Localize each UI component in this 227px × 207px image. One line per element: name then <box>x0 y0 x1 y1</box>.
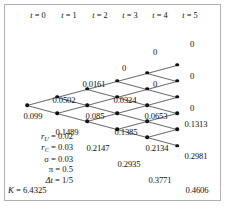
lattice-node[interactable] <box>25 103 29 107</box>
lattice-node[interactable] <box>145 71 149 75</box>
lattice-edge <box>117 113 147 122</box>
node-value-label: 0.2134 <box>145 143 168 153</box>
lattice-node[interactable] <box>85 103 89 107</box>
param-rc: rC = 0.03 <box>8 142 92 153</box>
lattice-edge <box>57 105 87 114</box>
node-value-label: 0.4606 <box>185 185 208 195</box>
lattice-edge <box>57 113 87 122</box>
param-dt: Δt = 1/5 <box>8 175 92 185</box>
lattice-edge <box>147 129 177 138</box>
param-rc-value: 0.03 <box>58 142 73 152</box>
lattice-node[interactable] <box>145 87 149 91</box>
node-value-label: 0.085 <box>86 111 105 121</box>
lattice-edge <box>147 121 177 130</box>
lattice-node[interactable] <box>115 79 119 83</box>
node-value-label: 0.099 <box>24 111 43 121</box>
time-header-value: = 2 <box>95 11 108 20</box>
lattice-node[interactable] <box>175 79 179 83</box>
node-value-label: 0.2935 <box>117 159 140 169</box>
node-value-label: 0.0653 <box>144 111 167 121</box>
sigma-symbol: σ <box>44 154 49 164</box>
node-value-label: 0 <box>122 63 126 73</box>
lattice-node[interactable] <box>175 63 179 67</box>
lattice-edge <box>87 121 117 130</box>
delta-t-symbol: Δt <box>45 175 52 185</box>
lattice-edge <box>147 73 177 82</box>
node-value-label: 0.1313 <box>184 119 207 129</box>
time-header-t1: t = 1 <box>61 11 76 20</box>
lattice-edge <box>147 97 177 106</box>
time-header-value: = 4 <box>155 11 168 20</box>
param-ru-value: 0.02 <box>58 131 73 141</box>
node-value-label: 0 <box>190 71 194 81</box>
lattice-node[interactable] <box>145 103 149 107</box>
param-k-value: 6.4325 <box>23 185 47 195</box>
lattice-edge <box>147 89 177 98</box>
node-value-label: 0 <box>190 103 194 113</box>
time-header-value: = 5 <box>185 11 198 20</box>
time-header-value: = 0 <box>33 11 46 20</box>
time-header-t3: t = 3 <box>122 11 137 20</box>
lattice-node[interactable] <box>175 95 179 99</box>
k-symbol: K <box>8 185 14 195</box>
lattice-edge <box>147 81 177 90</box>
lattice-node[interactable] <box>175 111 179 115</box>
lattice-edge <box>117 81 147 90</box>
lattice-node[interactable] <box>55 111 59 115</box>
node-value-label: 0.0502 <box>52 95 75 105</box>
lattice-node[interactable] <box>175 144 179 148</box>
figure-frame: t = 0t = 1t = 2t = 3t = 4t = 50.0990.050… <box>4 4 221 201</box>
param-sigma-value: 0.03 <box>58 154 73 164</box>
lattice-node[interactable] <box>115 111 119 115</box>
time-header-t2: t = 2 <box>92 11 107 20</box>
time-header-value: = 1 <box>64 11 77 20</box>
lattice-edge <box>117 73 147 82</box>
parameter-block: rU = 0.02 rC = 0.03 σ = 0.03 π = 0.5 Δt … <box>8 131 92 195</box>
time-header-value: = 3 <box>125 11 138 20</box>
node-value-label: 0.3771 <box>148 175 171 185</box>
node-value-label: 0.2981 <box>184 151 207 161</box>
pi-symbol: π <box>49 164 53 174</box>
param-sigma: σ = 0.03 <box>8 154 92 164</box>
node-value-label: 0.0161 <box>82 79 105 89</box>
time-header-t5: t = 5 <box>182 11 197 20</box>
time-header-t4: t = 4 <box>152 11 167 20</box>
node-value-label: 0 <box>190 39 194 49</box>
param-pi: π = 0.5 <box>8 164 92 174</box>
param-ru: rU = 0.02 <box>8 131 92 142</box>
lattice-edge <box>147 65 177 74</box>
time-header-t0: t = 0 <box>30 11 45 20</box>
node-value-label: 0 <box>153 79 157 89</box>
param-dt-value: 1/5 <box>62 175 73 185</box>
lattice-node[interactable] <box>175 128 179 132</box>
node-value-label: 0.0324 <box>113 95 136 105</box>
param-k: K = 6.4325 <box>8 185 92 195</box>
node-value-label: 0.1385 <box>114 127 137 137</box>
lattice-node[interactable] <box>145 136 149 140</box>
node-value-label: 0 <box>153 47 157 57</box>
param-pi-value: 0.5 <box>62 164 73 174</box>
lattice-edge <box>117 105 147 114</box>
